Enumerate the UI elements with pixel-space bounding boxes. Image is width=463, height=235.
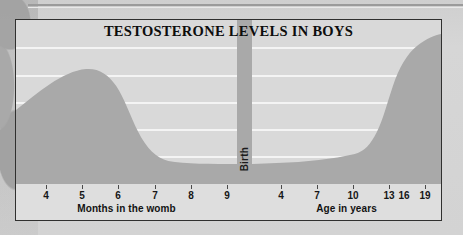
tick-mark: [389, 185, 390, 189]
tick-label: 19: [419, 190, 430, 201]
chart-title: TESTOSTERONE LEVELS IN BOYS: [16, 23, 441, 40]
x-axis-postnatal-title: Age in years: [252, 203, 441, 214]
page-top-rule: [28, 4, 463, 6]
birth-marker-label: Birth: [237, 136, 252, 182]
chart-plot-area: Birth TESTOSTERONE LEVELS IN BOYS: [16, 20, 441, 184]
x-axis-prenatal: 4 5 6 7 8 9 Months in the womb: [16, 184, 237, 220]
tick-mark: [317, 185, 318, 189]
birth-marker-text: Birth: [239, 147, 250, 171]
page-top-rule-highlight: [28, 7, 463, 8]
tick-label: 16: [398, 190, 409, 201]
tick-label: 7: [314, 190, 320, 201]
tick-mark: [425, 185, 426, 189]
testosterone-area-curve: [16, 20, 441, 184]
area-fill-path: [16, 34, 441, 184]
tick-mark: [353, 185, 354, 189]
tick-label: 10: [347, 190, 358, 201]
tick-mark: [155, 185, 156, 189]
tick-label: 7: [152, 190, 158, 201]
tick-mark: [281, 185, 282, 189]
tick-label: 4: [43, 190, 49, 201]
tick-mark: [82, 185, 83, 189]
x-axis-prenatal-title: Months in the womb: [16, 203, 237, 214]
tick-label: 8: [188, 190, 194, 201]
tick-label: 5: [79, 190, 85, 201]
tick-mark: [191, 185, 192, 189]
x-axis-postnatal: 4 7 10 13 16 19 Age in years: [252, 184, 441, 220]
tick-label: 4: [278, 190, 284, 201]
tick-mark: [46, 185, 47, 189]
tick-mark: [118, 185, 119, 189]
tick-mark: [227, 185, 228, 189]
chart-frame: Birth TESTOSTERONE LEVELS IN BOYS 4 5 6 …: [15, 19, 442, 221]
axis-strip: 4 5 6 7 8 9 Months in the womb 4 7 10 13…: [16, 184, 441, 220]
tick-label: 13: [383, 190, 394, 201]
tick-label: 9: [224, 190, 230, 201]
tick-label: 6: [115, 190, 121, 201]
